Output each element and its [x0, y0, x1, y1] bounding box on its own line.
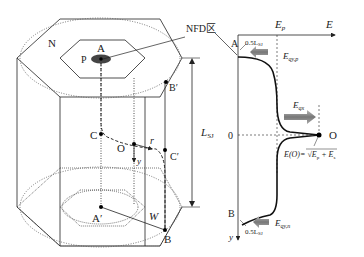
profile-plot: [238, 35, 335, 240]
label-C: C: [90, 129, 97, 141]
top-offset: 0.5LSJ: [245, 39, 263, 47]
label-O: O: [117, 142, 125, 154]
label-r: r: [150, 135, 154, 146]
label-Eqyn: Eqy,n: [274, 218, 290, 229]
bottom-offset: 0.5LSJ: [245, 228, 263, 236]
label-y: y: [136, 156, 141, 166]
label-L: LSJ: [200, 126, 214, 140]
label-A: A: [97, 42, 105, 54]
label-Eqx: Eqx: [292, 100, 305, 111]
charge-path: [101, 63, 165, 230]
label-A-right: A: [231, 38, 239, 49]
label-W: W: [149, 210, 159, 222]
label-E-axis: E: [325, 18, 333, 30]
label-C-prime: C′: [170, 151, 179, 162]
label-P: P: [81, 54, 87, 65]
label-Ep: Ep: [274, 18, 286, 32]
label-B: B: [164, 233, 171, 245]
nfd-callout: NFD区: [186, 23, 216, 34]
label-B-right: B: [228, 208, 235, 219]
label-zero: 0: [228, 130, 233, 141]
figure-canvas: N P A B′ C O r C′ y A′ W B LSJ NFD区 Ep E…: [0, 0, 364, 257]
label-N: N: [48, 37, 56, 49]
label-B-prime: B′: [169, 82, 178, 93]
label-A-prime: A′: [92, 212, 102, 224]
label-O-right: O: [329, 129, 337, 141]
formula-E-O: E(O)=√Ep+ Es: [283, 150, 335, 160]
label-Eqyp: Eqy,p: [282, 51, 298, 62]
label-y-axis: y: [228, 232, 233, 242]
